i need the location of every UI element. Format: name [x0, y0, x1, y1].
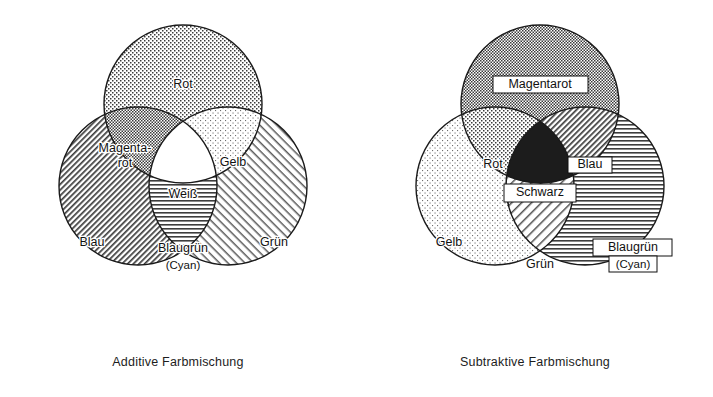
additive-label-gelb: Gelb	[220, 155, 246, 169]
additive-label-magentarot-line2: rot	[118, 156, 133, 170]
subtractive-label-blaugruen-line2: (Cyan)	[616, 258, 651, 270]
subtractive-label-magentarot: Magentarot	[508, 77, 572, 91]
subtractive-label-gelb: Gelb	[436, 235, 462, 249]
additive-label-blau: Blau	[79, 235, 104, 249]
subtractive-label-blaugruen-group: Blaugrün (Cyan)	[593, 239, 672, 272]
subtractive-label-gruen: Grün	[526, 257, 554, 271]
additive-diagram-panel: Rot Blau Grün Magenta- rot Gelb Blaugrün…	[0, 0, 356, 397]
subtractive-label-schwarz: Schwarz	[516, 185, 564, 199]
additive-label-blaugruen-line2: (Cyan)	[166, 259, 201, 271]
subtractive-label-blaugruen: Blaugrün	[608, 240, 658, 254]
additive-label-gruen: Grün	[260, 235, 288, 249]
subtractive-label-rot: Rot	[483, 157, 503, 171]
subtractive-caption: Subtraktive Farbmischung	[357, 355, 713, 369]
additive-label-magentarot: Magenta-	[99, 141, 152, 155]
additive-venn-svg: Rot Blau Grün Magenta- rot Gelb Blaugrün…	[0, 0, 356, 350]
additive-label-rot: Rot	[173, 77, 193, 91]
subtractive-venn-svg: Magentarot Gelb Blaugrün (Cyan) Rot Blau…	[357, 0, 713, 350]
additive-label-weiss: Weiß	[169, 187, 198, 201]
subtractive-label-magentarot-group: Magentarot	[493, 76, 588, 93]
subtractive-label-blau-group: Blau	[568, 157, 612, 173]
figure-canvas: Rot Blau Grün Magenta- rot Gelb Blaugrün…	[0, 0, 713, 397]
additive-label-blaugruen: Blaugrün	[158, 241, 208, 255]
subtractive-label-schwarz-group: Schwarz	[504, 184, 576, 202]
subtractive-diagram-panel: Magentarot Gelb Blaugrün (Cyan) Rot Blau…	[357, 0, 713, 397]
additive-caption: Additive Farbmischung	[0, 355, 356, 369]
subtractive-label-blau: Blau	[577, 157, 602, 171]
